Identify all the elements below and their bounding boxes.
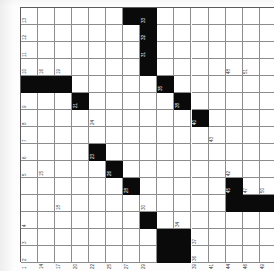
grid-letter-cell[interactable]: [243, 110, 260, 127]
grid-letter-cell[interactable]: [192, 76, 209, 93]
grid-letter-cell[interactable]: [243, 76, 260, 93]
grid-letter-cell[interactable]: 13: [21, 8, 38, 25]
grid-letter-cell[interactable]: 19: [55, 59, 72, 76]
grid-letter-cell[interactable]: [123, 229, 140, 246]
grid-letter-cell[interactable]: [157, 161, 174, 178]
grid-letter-cell[interactable]: [243, 229, 260, 246]
grid-letter-cell[interactable]: [226, 110, 243, 127]
grid-letter-cell[interactable]: [106, 8, 123, 25]
grid-letter-cell[interactable]: [243, 8, 260, 25]
grid-letter-cell[interactable]: [106, 25, 123, 42]
grid-letter-cell[interactable]: [89, 161, 106, 178]
grid-letter-cell[interactable]: [89, 212, 106, 229]
grid-letter-cell[interactable]: [192, 195, 209, 212]
grid-letter-cell[interactable]: [72, 42, 89, 59]
grid-letter-cell[interactable]: 30: [140, 195, 157, 212]
grid-letter-cell[interactable]: [192, 93, 209, 110]
grid-letter-cell[interactable]: [226, 127, 243, 144]
grid-letter-cell[interactable]: [55, 8, 72, 25]
grid-letter-cell[interactable]: [55, 212, 72, 229]
grid-letter-cell[interactable]: [72, 195, 89, 212]
grid-letter-cell[interactable]: 17: [55, 246, 72, 263]
grid-letter-cell[interactable]: [38, 42, 55, 59]
grid-letter-cell[interactable]: [55, 144, 72, 161]
grid-letter-cell[interactable]: [72, 212, 89, 229]
grid-letter-cell[interactable]: [260, 8, 274, 25]
grid-letter-cell[interactable]: [260, 59, 274, 76]
grid-letter-cell[interactable]: [106, 59, 123, 76]
grid-letter-cell[interactable]: [209, 195, 226, 212]
grid-letter-cell[interactable]: [72, 76, 89, 93]
grid-letter-cell[interactable]: 15: [38, 161, 55, 178]
grid-letter-cell[interactable]: [21, 195, 38, 212]
grid-letter-cell[interactable]: [72, 25, 89, 42]
grid-letter-cell[interactable]: [260, 127, 274, 144]
grid-letter-cell[interactable]: 27: [123, 246, 140, 263]
grid-letter-cell[interactable]: [260, 212, 274, 229]
grid-letter-cell[interactable]: 8: [21, 110, 38, 127]
grid-letter-cell[interactable]: [38, 144, 55, 161]
grid-letter-cell[interactable]: [226, 229, 243, 246]
grid-letter-cell[interactable]: [89, 42, 106, 59]
grid-letter-cell[interactable]: 3: [21, 229, 38, 246]
grid-letter-cell[interactable]: [209, 25, 226, 42]
grid-letter-cell[interactable]: [174, 8, 191, 25]
grid-letter-cell[interactable]: [106, 93, 123, 110]
grid-letter-cell[interactable]: [192, 144, 209, 161]
grid-letter-cell[interactable]: 47: [243, 178, 260, 195]
grid-letter-cell[interactable]: [260, 25, 274, 42]
grid-letter-cell[interactable]: [243, 161, 260, 178]
grid-letter-cell[interactable]: 37: [192, 229, 209, 246]
grid-letter-cell[interactable]: [157, 144, 174, 161]
grid-letter-cell[interactable]: [260, 76, 274, 93]
grid-letter-cell[interactable]: 3639: [192, 246, 209, 263]
grid-letter-cell[interactable]: [226, 212, 243, 229]
grid-letter-cell[interactable]: [174, 127, 191, 144]
grid-letter-cell[interactable]: 16: [38, 59, 55, 76]
grid-letter-cell[interactable]: [38, 195, 55, 212]
grid-letter-cell[interactable]: 7: [21, 127, 38, 144]
grid-letter-cell[interactable]: 48: [226, 59, 243, 76]
grid-letter-cell[interactable]: [243, 25, 260, 42]
grid-letter-cell[interactable]: [123, 25, 140, 42]
grid-letter-cell[interactable]: [174, 76, 191, 93]
grid-letter-cell[interactable]: [123, 76, 140, 93]
grid-letter-cell[interactable]: [140, 110, 157, 127]
grid-letter-cell[interactable]: [89, 93, 106, 110]
grid-letter-cell[interactable]: [123, 212, 140, 229]
grid-letter-cell[interactable]: [21, 178, 38, 195]
grid-letter-cell[interactable]: [55, 93, 72, 110]
grid-letter-cell[interactable]: [226, 8, 243, 25]
grid-letter-cell[interactable]: [123, 161, 140, 178]
grid-letter-cell[interactable]: [123, 127, 140, 144]
grid-letter-cell[interactable]: [157, 212, 174, 229]
grid-letter-cell[interactable]: [38, 110, 55, 127]
grid-letter-cell[interactable]: [157, 42, 174, 59]
grid-letter-cell[interactable]: [89, 195, 106, 212]
grid-letter-cell[interactable]: [123, 195, 140, 212]
grid-letter-cell[interactable]: [192, 127, 209, 144]
grid-letter-cell[interactable]: [260, 161, 274, 178]
grid-letter-cell[interactable]: 34: [174, 212, 191, 229]
grid-letter-cell[interactable]: [140, 178, 157, 195]
grid-letter-cell[interactable]: [140, 161, 157, 178]
grid-letter-cell[interactable]: [140, 144, 157, 161]
grid-letter-cell[interactable]: [209, 42, 226, 59]
grid-letter-cell[interactable]: [209, 59, 226, 76]
grid-letter-cell[interactable]: [106, 178, 123, 195]
grid-letter-cell[interactable]: [55, 178, 72, 195]
grid-letter-cell[interactable]: [106, 110, 123, 127]
grid-letter-cell[interactable]: [243, 144, 260, 161]
grid-letter-cell[interactable]: [55, 229, 72, 246]
grid-letter-cell[interactable]: 11: [21, 42, 38, 59]
grid-letter-cell[interactable]: [157, 8, 174, 25]
grid-letter-cell[interactable]: [226, 25, 243, 42]
grid-letter-cell[interactable]: [106, 229, 123, 246]
grid-letter-cell[interactable]: [192, 178, 209, 195]
grid-letter-cell[interactable]: [209, 110, 226, 127]
grid-letter-cell[interactable]: [209, 212, 226, 229]
grid-letter-cell[interactable]: [174, 42, 191, 59]
grid-letter-cell[interactable]: [157, 178, 174, 195]
grid-letter-cell[interactable]: [243, 42, 260, 59]
grid-letter-cell[interactable]: 49: [260, 246, 274, 263]
